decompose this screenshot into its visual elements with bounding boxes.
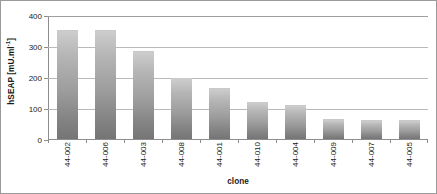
y-tick-label: 0 <box>38 136 42 145</box>
x-tick-label: 44-004 <box>277 142 313 178</box>
x-tick-label: 44-001 <box>201 142 237 178</box>
bar <box>247 102 268 139</box>
x-tick-label: 44-007 <box>353 142 389 178</box>
x-tick-label-text: 44-004 <box>291 142 300 167</box>
x-tick-label: 44-006 <box>87 142 123 178</box>
x-tick-label: 44-008 <box>163 142 199 178</box>
bar <box>171 78 192 139</box>
bar <box>361 120 382 139</box>
bars-group <box>48 16 428 140</box>
x-tick-label-text: 44-010 <box>253 142 262 167</box>
x-tick-label-text: 44-006 <box>101 142 110 167</box>
y-tick-label: 300 <box>29 43 42 52</box>
x-axis-title: clone <box>48 177 428 186</box>
x-tick-label-text: 44-001 <box>215 142 224 167</box>
bar <box>95 30 116 139</box>
x-tick-label-text: 44-002 <box>63 142 72 167</box>
x-tick-label: 44-005 <box>391 142 427 178</box>
x-tick-label-text: 44-008 <box>177 142 186 167</box>
x-axis-tick-labels: 44-00244-00644-00344-00844-00144-01044-0… <box>48 142 428 178</box>
x-tick-label: 44-003 <box>125 142 161 178</box>
bar <box>209 88 230 139</box>
bar <box>133 51 154 139</box>
x-tick-label: 44-002 <box>49 142 85 178</box>
plot-area <box>48 16 428 140</box>
y-tick-label: 200 <box>29 74 42 83</box>
bar <box>285 105 306 139</box>
bar <box>57 30 78 139</box>
x-tick-label: 44-010 <box>239 142 275 178</box>
x-tick-label-text: 44-007 <box>367 142 376 167</box>
bar <box>323 119 344 139</box>
y-axis-tick-labels: 0100200300400 <box>19 16 46 140</box>
y-tick-label: 100 <box>29 105 42 114</box>
x-tick-label: 44-009 <box>315 142 351 178</box>
y-axis-title-text: hSEAP [mU.ml-1] <box>5 38 16 105</box>
bar <box>399 120 420 139</box>
x-tick-label-text: 44-009 <box>329 142 338 167</box>
chart-figure: hSEAP [mU.ml-1] 0100200300400 44-00244-0… <box>0 0 437 194</box>
y-tick-label: 400 <box>29 12 42 21</box>
x-tick-label-text: 44-005 <box>405 142 414 167</box>
x-tick-label-text: 44-003 <box>139 142 148 167</box>
y-axis-title: hSEAP [mU.ml-1] <box>1 1 19 141</box>
